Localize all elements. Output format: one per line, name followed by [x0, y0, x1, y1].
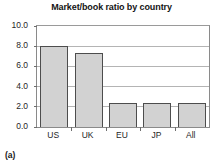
bar-eu: [109, 103, 137, 127]
bar-slot: [37, 26, 71, 127]
panel-caption: (a): [5, 150, 15, 160]
bar-us: [40, 46, 68, 127]
bar-slot: [175, 26, 209, 127]
bar-uk: [75, 53, 103, 127]
y-tick-label: 8.0: [0, 41, 28, 50]
bar-slot: [71, 26, 105, 127]
bar-jp: [143, 103, 171, 127]
bar-slot: [106, 26, 140, 127]
plot-area: [36, 25, 210, 128]
bars-group: [37, 26, 209, 127]
y-tick-label: 0.0: [0, 122, 28, 131]
bar-slot: [140, 26, 174, 127]
y-tick-label: 6.0: [0, 61, 28, 70]
chart-title: Market/book ratio by country: [0, 2, 223, 12]
bar-all: [178, 103, 206, 127]
y-tick-label: 10.0: [0, 21, 28, 30]
figure-panel: Market/book ratio by country 0.02.04.06.…: [0, 0, 223, 167]
x-tick-label-all: All: [171, 131, 211, 140]
y-tick-label: 2.0: [0, 102, 28, 111]
y-tick-label: 4.0: [0, 82, 28, 91]
